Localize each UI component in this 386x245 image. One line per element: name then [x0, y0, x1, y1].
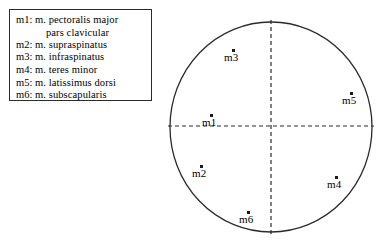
legend-item-m6: m6:m. subscapularis	[16, 89, 148, 102]
muscle-position-figure: m1:m. pectoralis major pars clavicular m…	[0, 0, 386, 245]
legend-key-m4: m4:	[16, 64, 35, 77]
legend-item-m5: m5:m. latissimus dorsi	[16, 77, 148, 90]
legend-key-m1: m1:	[16, 14, 35, 27]
legend-text-m4: m. teres minor	[35, 64, 97, 75]
point-label-m3: m3	[224, 52, 238, 63]
legend-item-m3: m3:m. infraspinatus	[16, 51, 148, 64]
legend-continuation-m1: pars clavicular	[16, 27, 148, 39]
legend-key-m3: m3:	[16, 51, 35, 64]
point-label-m2: m2	[192, 168, 206, 179]
legend-key-m5: m5:	[16, 77, 35, 90]
circle-outline-svg	[160, 0, 386, 245]
legend-text-m3: m. infraspinatus	[35, 51, 104, 62]
point-label-m1: m1	[202, 117, 216, 128]
point-label-m4: m4	[327, 179, 341, 190]
legend-item-m1: m1:m. pectoralis major	[16, 14, 148, 27]
legend-key-m6: m6:	[16, 89, 35, 102]
point-label-m5: m5	[342, 95, 356, 106]
legend-text-m2: m. supraspinatus	[35, 39, 107, 50]
legend-text-m5: m. latissimus dorsi	[35, 77, 116, 88]
legend-item-m4: m4:m. teres minor	[16, 64, 148, 77]
legend-text-m6: m. subscapularis	[35, 89, 107, 100]
circle-diagram: m3 m5 m1 m2 m4 m6	[160, 0, 386, 245]
legend-text-m1: m. pectoralis major	[35, 14, 118, 25]
point-label-m6: m6	[239, 214, 253, 225]
legend-item-m2: m2:m. supraspinatus	[16, 39, 148, 52]
legend-box: m1:m. pectoralis major pars clavicular m…	[9, 9, 152, 101]
legend-key-m2: m2:	[16, 39, 35, 52]
